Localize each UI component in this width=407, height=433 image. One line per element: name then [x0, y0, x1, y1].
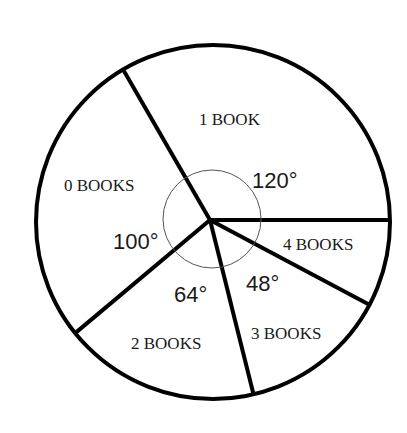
angle-label-48: 48° [246, 271, 279, 296]
angle-label-64: 64° [174, 282, 207, 307]
slice-label-3-books: 3 BOOKS [251, 324, 321, 343]
angle-label-100: 100° [113, 229, 159, 254]
angle-label-120: 120° [252, 168, 298, 193]
slice-label-2-books: 2 BOOKS [131, 334, 201, 353]
pie-chart: 1 BOOK 0 BOOKS 2 BOOKS 3 BOOKS 4 BOOKS 1… [0, 0, 407, 433]
slice-label-1-book: 1 BOOK [199, 110, 261, 129]
slice-label-0-books: 0 BOOKS [64, 176, 134, 195]
slice-divider-line [210, 220, 254, 394]
slice-divider-line [123, 70, 210, 221]
slice-label-4-books: 4 BOOKS [283, 235, 353, 254]
